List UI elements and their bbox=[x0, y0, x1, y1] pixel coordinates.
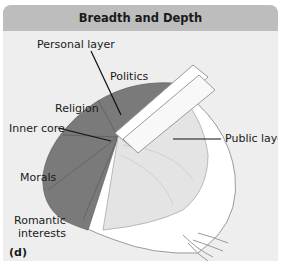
label-morals: Morals bbox=[20, 172, 56, 184]
label-politics: Politics bbox=[110, 71, 148, 83]
label-personal-layer: Personal layer bbox=[37, 39, 115, 51]
figure-sublabel: (d) bbox=[9, 247, 27, 259]
label-public-layer: Public layer bbox=[225, 133, 278, 145]
diagram-panel: Breadth and Depth Personal layer Politic… bbox=[3, 5, 278, 261]
label-romantic-line2: interests bbox=[18, 228, 66, 240]
label-religion: Religion bbox=[55, 103, 99, 115]
label-inner-core: Inner core bbox=[9, 123, 65, 135]
label-romantic-line1: Romantic bbox=[14, 215, 66, 227]
